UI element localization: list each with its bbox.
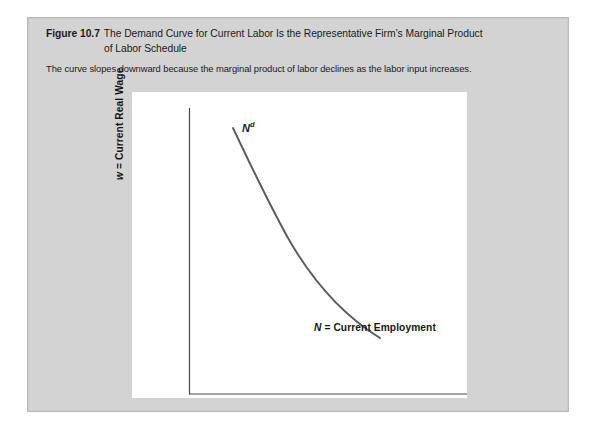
- curve-label-nd: Nd: [242, 120, 255, 134]
- y-axis-label-rest: = Current Real Wage: [114, 68, 125, 172]
- chart-axes: [189, 108, 467, 395]
- chart-plot-panel: Nd w = Current Real Wage N = Current Emp…: [132, 92, 467, 398]
- y-axis-variable: w: [114, 172, 125, 180]
- x-axis-label-rest: = Current Employment: [321, 322, 435, 333]
- curve-label-variable: N: [242, 122, 250, 134]
- figure-box: Figure 10.7The Demand Curve for Current …: [27, 17, 569, 412]
- labor-demand-curve: [233, 128, 380, 338]
- page-canvas: Figure 10.7The Demand Curve for Current …: [0, 0, 596, 429]
- figure-title-line-2: of Labor Schedule: [46, 42, 551, 57]
- x-axis-label: N = Current Employment: [314, 322, 436, 333]
- figure-title-line-1: Figure 10.7The Demand Curve for Current …: [46, 27, 551, 42]
- curve-label-superscript: d: [250, 120, 255, 129]
- y-axis-label: w = Current Real Wage: [114, 68, 125, 180]
- figure-title-text: The Demand Curve for Current Labor Is th…: [100, 28, 483, 39]
- figure-number: Figure 10.7: [46, 28, 100, 39]
- labor-demand-chart: [132, 92, 467, 398]
